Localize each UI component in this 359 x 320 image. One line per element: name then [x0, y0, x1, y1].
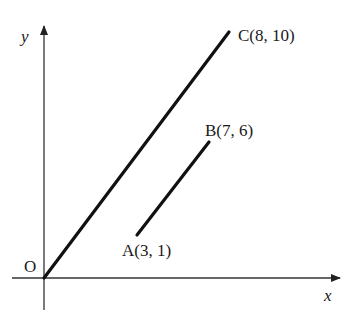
point-b-label: B(7, 6): [205, 121, 253, 140]
y-axis-label: y: [19, 27, 29, 46]
coordinate-diagram: y x O C(8, 10) B(7, 6) A(3, 1): [0, 0, 359, 320]
point-c-label: C(8, 10): [238, 26, 295, 45]
x-axis-label: x: [323, 286, 332, 305]
origin-label: O: [24, 257, 36, 276]
point-a-label: A(3, 1): [122, 241, 171, 260]
segment-ab: [137, 142, 209, 235]
